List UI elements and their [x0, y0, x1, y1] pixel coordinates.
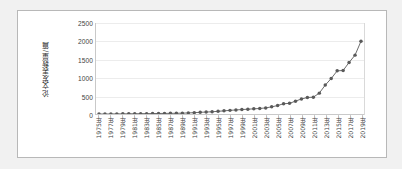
y-axis-tick-label: 1000 — [78, 75, 93, 82]
x-axis-tick-label: 1987年 — [165, 117, 175, 161]
x-axis-tick-text: 1987年 — [166, 117, 175, 139]
x-axis-tick-label: 1989年 — [177, 117, 187, 161]
x-axis-tick-label: 2005年 — [273, 117, 283, 161]
x-axis-tick-labels: 1975年1977年1979年1981年1983年1985年1987年1989年… — [95, 117, 365, 161]
data-point-marker — [228, 109, 231, 112]
x-axis-tick-text: 1997年 — [226, 117, 235, 139]
x-axis-tick-text: 1983年 — [142, 117, 151, 139]
x-axis-tick-label: 2015年 — [333, 117, 343, 161]
x-axis-tick-text: 1993年 — [202, 117, 211, 139]
chart-page: 论文发表数量/篇 05001000150020002500 1975年1977年… — [0, 0, 402, 169]
plot-inner — [96, 23, 364, 115]
data-point-marker — [264, 106, 267, 109]
data-point-marker — [335, 69, 338, 72]
x-axis-tick-label: 2007年 — [285, 117, 295, 161]
y-axis-tick-label: 2000 — [78, 38, 93, 45]
x-axis-tick-label: 2009年 — [297, 117, 307, 161]
data-point-marker — [318, 91, 321, 94]
data-point-marker — [252, 107, 255, 110]
data-point-marker — [216, 110, 219, 113]
data-point-marker — [234, 108, 237, 111]
data-point-marker — [210, 110, 213, 113]
x-axis-tick-text: 2013年 — [322, 117, 331, 139]
x-axis-tick-text: 2009年 — [298, 117, 307, 139]
data-point-marker — [341, 69, 344, 72]
x-axis-tick-text: 1975年 — [94, 117, 103, 139]
x-axis-tick-text: 1999年 — [238, 117, 247, 139]
y-axis-title-label: 论文发表数量/篇 — [41, 42, 51, 97]
x-axis-tick-label: 1995年 — [213, 117, 223, 161]
x-axis-tick-label: 1983年 — [141, 117, 151, 161]
x-axis-tick-label: 1993年 — [201, 117, 211, 161]
x-axis-tick-text: 2017年 — [346, 117, 355, 139]
x-axis-tick-text: 2003年 — [262, 117, 271, 139]
x-axis-tick-label: 2013年 — [321, 117, 331, 161]
x-axis-tick-label: 2011年 — [309, 117, 319, 161]
x-axis-tick-text: 1977年 — [106, 117, 115, 139]
data-point-marker — [276, 104, 279, 107]
x-axis-tick-label: 2019年 — [357, 117, 367, 161]
line-series — [96, 23, 364, 114]
chart-frame: 论文发表数量/篇 05001000150020002500 1975年1977年… — [17, 10, 387, 158]
data-point-marker — [282, 102, 285, 105]
x-axis-tick-text: 1981年 — [130, 117, 139, 139]
data-point-marker — [258, 107, 261, 110]
x-axis-tick-label: 1985年 — [153, 117, 163, 161]
data-point-marker — [246, 107, 249, 110]
data-point-marker — [222, 109, 225, 112]
data-point-marker — [329, 77, 332, 80]
data-point-marker — [288, 102, 291, 105]
plot-area — [95, 23, 365, 115]
x-axis-tick-text: 2019年 — [358, 117, 367, 139]
x-axis-tick-label: 1975年 — [93, 117, 103, 161]
data-point-marker — [300, 97, 303, 100]
x-axis-tick-text: 2015年 — [334, 117, 343, 139]
x-axis-tick-label: 1981年 — [129, 117, 139, 161]
data-point-marker — [353, 53, 356, 56]
series-line — [99, 41, 361, 114]
x-axis-tick-label: 1991年 — [189, 117, 199, 161]
x-axis-tick-label: 2017年 — [345, 117, 355, 161]
x-axis-tick-text: 1979年 — [118, 117, 127, 139]
data-point-marker — [312, 95, 315, 98]
y-axis-tick-label: 1500 — [78, 56, 93, 63]
x-axis-tick-label: 1997年 — [225, 117, 235, 161]
x-axis-tick-text: 2001年 — [250, 117, 259, 139]
data-point-marker — [359, 40, 362, 43]
y-axis-tick-labels: 05001000150020002500 — [56, 23, 93, 115]
x-axis-tick-label: 2001年 — [249, 117, 259, 161]
data-point-marker — [270, 105, 273, 108]
y-axis-tick-label: 2500 — [78, 20, 93, 27]
data-point-marker — [306, 96, 309, 99]
y-axis-title: 论文发表数量/篇 — [40, 23, 52, 115]
x-axis-tick-text: 1991年 — [190, 117, 199, 139]
x-axis-tick-label: 1977年 — [105, 117, 115, 161]
x-axis-tick-text: 2005年 — [274, 117, 283, 139]
x-axis-tick-text: 2011年 — [310, 117, 319, 139]
data-point-marker — [294, 99, 297, 102]
x-axis-tick-label: 1979年 — [117, 117, 127, 161]
x-axis-tick-label: 1999年 — [237, 117, 247, 161]
x-axis-tick-text: 1985年 — [154, 117, 163, 139]
x-axis-tick-text: 2007年 — [286, 117, 295, 139]
x-axis-tick-label: 2003年 — [261, 117, 271, 161]
x-axis-tick-text: 1989年 — [178, 117, 187, 139]
data-point-marker — [324, 83, 327, 86]
y-axis-tick-label: 500 — [82, 93, 93, 100]
data-point-marker — [240, 108, 243, 111]
x-axis-tick-text: 1995年 — [214, 117, 223, 139]
data-point-marker — [347, 61, 350, 64]
